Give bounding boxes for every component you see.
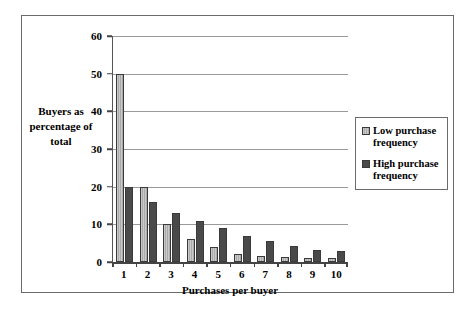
x-tick-cell-8: [277, 262, 301, 267]
y-axis-title-line-3: total: [14, 134, 108, 149]
x-tick-cell-6: [230, 262, 254, 267]
x-tick-label-9: 9: [301, 268, 325, 280]
bar-low-6[interactable]: [234, 254, 242, 262]
x-tick-mark-8: [277, 262, 279, 267]
bars-layer: [113, 36, 348, 262]
bar-group-3: [160, 36, 184, 262]
y-tick-label-60: 60: [91, 30, 102, 42]
y-tick-label-20: 20: [91, 181, 102, 193]
bar-high-9[interactable]: [313, 250, 321, 262]
x-tick-mark-1: [112, 262, 114, 267]
bar-group-10: [325, 36, 349, 262]
x-tick-label-3: 3: [159, 268, 183, 280]
x-tick-mark-10: [324, 262, 326, 267]
bar-group-5: [207, 36, 231, 262]
y-axis-title-line-2: percentage of: [14, 119, 108, 134]
bar-high-5[interactable]: [219, 228, 227, 262]
bar-low-4[interactable]: [187, 239, 195, 262]
legend-swatch-icon-high: [362, 160, 370, 168]
legend-label-low: Low purchase frequency: [373, 125, 436, 149]
bar-group-1: [113, 36, 137, 262]
x-tick-label-8: 8: [277, 268, 301, 280]
x-tick-cell-10: [324, 262, 348, 267]
bar-group-8: [278, 36, 302, 262]
x-tick-cell-2: [136, 262, 160, 267]
x-tick-cell-1: [112, 262, 136, 267]
x-tick-cell-7: [254, 262, 278, 267]
bar-group-9: [301, 36, 325, 262]
x-tick-label-4: 4: [183, 268, 207, 280]
legend-label-low-line-1: Low purchase: [373, 125, 436, 136]
x-tick-label-6: 6: [230, 268, 254, 280]
x-tick-cell-9: [301, 262, 325, 267]
y-tick-label-0: 0: [97, 256, 103, 268]
bar-high-8[interactable]: [290, 246, 298, 262]
legend-label-high: High purchase frequency: [373, 158, 438, 182]
bar-low-1[interactable]: [116, 74, 124, 262]
bar-high-6[interactable]: [243, 236, 251, 262]
chart-legend: Low purchase frequency High purchase fre…: [355, 117, 448, 190]
legend-swatch-icon-low: [362, 127, 370, 135]
bar-low-3[interactable]: [163, 224, 171, 262]
x-tick-label-7: 7: [254, 268, 278, 280]
bar-group-4: [184, 36, 208, 262]
x-tick-mark-9: [301, 262, 303, 267]
bar-group-6: [231, 36, 255, 262]
y-axis-title: Buyers as percentage of total: [14, 104, 108, 149]
x-tick-mark-2: [136, 262, 138, 267]
bar-low-5[interactable]: [210, 247, 218, 262]
x-tick-mark-4: [183, 262, 185, 267]
bar-group-7: [254, 36, 278, 262]
bar-high-3[interactable]: [172, 213, 180, 262]
x-tick-label-2: 2: [136, 268, 160, 280]
bar-high-1[interactable]: [125, 187, 133, 262]
x-axis: 12345678910 Purchases per buyer: [112, 262, 348, 292]
chart-figure: 0102030405060 Buyers as percentage of to…: [0, 0, 475, 316]
legend-item-low-purchase-frequency[interactable]: Low purchase frequency: [362, 125, 442, 149]
legend-label-high-line-1: High purchase: [373, 158, 438, 169]
bar-high-2[interactable]: [149, 202, 157, 262]
y-tick-label-50: 50: [91, 68, 102, 80]
legend-label-low-line-2: frequency: [373, 137, 418, 148]
x-tick-label-10: 10: [324, 268, 348, 280]
x-tick-label-5: 5: [206, 268, 230, 280]
x-tick-mark-end: [346, 262, 348, 267]
bar-high-10[interactable]: [337, 251, 345, 262]
x-tick-cell-4: [183, 262, 207, 267]
bar-low-2[interactable]: [140, 187, 148, 262]
y-axis: 0102030405060: [21, 36, 112, 262]
x-axis-title: Purchases per buyer: [112, 284, 348, 296]
bar-group-2: [137, 36, 161, 262]
y-tick-label-10: 10: [91, 218, 102, 230]
x-tick-cell-5: [206, 262, 230, 267]
x-tick-mark-3: [159, 262, 161, 267]
x-tick-mark-7: [254, 262, 256, 267]
plot-area: [112, 36, 348, 262]
bar-high-4[interactable]: [196, 221, 204, 262]
legend-item-high-purchase-frequency[interactable]: High purchase frequency: [362, 158, 442, 182]
x-tick-cell-3: [159, 262, 183, 267]
x-tick-label-1: 1: [112, 268, 136, 280]
x-tick-labels: 12345678910: [112, 268, 348, 280]
x-tick-mark-5: [206, 262, 208, 267]
legend-label-high-line-2: frequency: [373, 170, 418, 181]
x-tick-marks: [112, 262, 348, 267]
x-tick-mark-6: [230, 262, 232, 267]
bar-high-7[interactable]: [266, 241, 274, 262]
y-axis-title-line-1: Buyers as: [14, 104, 108, 119]
